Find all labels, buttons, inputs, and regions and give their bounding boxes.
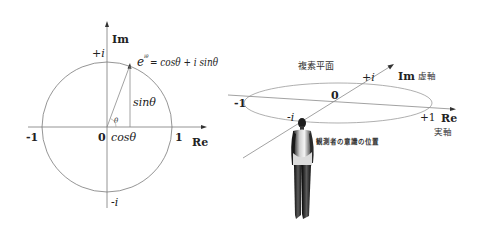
origin-label-3d: 0 — [331, 89, 339, 102]
minus-one-label: -1 — [26, 131, 38, 144]
minus-one-label-3d: -1 — [234, 97, 246, 110]
plus-i-label: +i — [92, 47, 105, 60]
imaginary-axis-arrow-icon — [105, 21, 109, 27]
im-jp-label: 虚軸 — [418, 71, 436, 81]
minus-i-label-3d: -i — [287, 111, 294, 124]
origin-label: 0 — [98, 131, 106, 144]
theta-label: θ — [114, 117, 119, 125]
re-jp-label: 実軸 — [434, 127, 452, 137]
one-label: 1 — [175, 131, 183, 144]
plus-one-label-3d: +1 — [420, 111, 435, 123]
radius-arrow-icon — [128, 63, 132, 69]
unit-circle-diagram: Im Re +i -i -1 1 0 cosθ sinθ θ e iθ = co… — [26, 21, 218, 209]
im-axis-label: Im — [112, 33, 129, 46]
imaginary-axis-3d-arrow-icon — [388, 64, 395, 70]
plus-i-label-3d: +i — [362, 71, 375, 84]
real-axis-3d-arrow-icon — [450, 107, 456, 111]
complex-plane-title: 複素平面 — [298, 60, 334, 71]
sin-label: sinθ — [133, 96, 156, 109]
observer-figure-icon — [291, 118, 313, 219]
minus-i-label: -i — [111, 196, 118, 209]
perspective-complex-plane: 複素平面 +i Im 虚軸 0 -1 -i +1 Re 実軸 観測者の意識の位置 — [228, 60, 457, 219]
formula-rhs: = cosθ + i sinθ — [150, 55, 218, 69]
real-axis-3d — [228, 95, 452, 109]
formula-exponent: iθ — [144, 53, 149, 59]
re-axis-label: Re — [192, 136, 208, 149]
diagram-canvas: Im Re +i -i -1 1 0 cosθ sinθ θ e iθ = co… — [0, 0, 482, 232]
im-label-3d: Im — [398, 70, 415, 83]
euler-formula: e iθ = cosθ + i sinθ — [137, 53, 218, 69]
cos-label: cosθ — [111, 131, 136, 144]
real-axis-arrow-icon — [201, 125, 207, 129]
radius-vector — [107, 65, 130, 127]
re-label-3d: Re — [441, 112, 457, 125]
observer-label: 観測者の意識の位置 — [316, 137, 379, 146]
